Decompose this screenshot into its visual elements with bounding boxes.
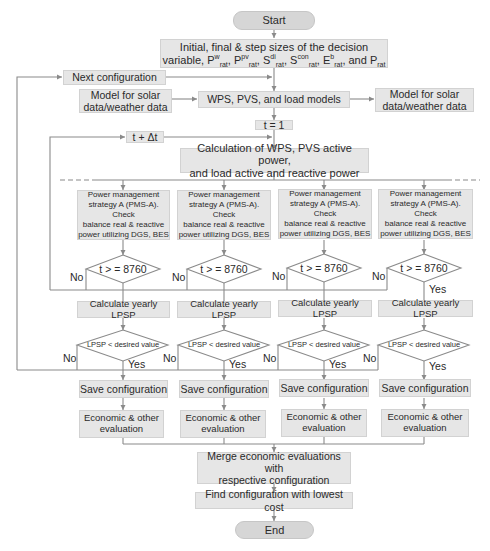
time-check-label-4: t > = 8760 — [394, 263, 454, 274]
next-configuration-label: Next configuration — [72, 71, 157, 83]
lpsp-check-label-3: LPSP < desired value — [284, 341, 364, 349]
model-solar-weather-right-box: Model for solar data/weather data — [375, 88, 474, 112]
lpsp-check-label-2: LPSP < desired value — [184, 341, 264, 349]
time-no-label-4: No — [372, 271, 385, 282]
calculation-power-box: Calculation of WPS, PVS active power, an… — [180, 148, 369, 173]
save-config-box-2: Save configuration — [179, 380, 269, 398]
end-label: End — [265, 524, 285, 537]
lpsp-no-label-3: No — [263, 353, 276, 364]
t-increment-label: t + Δt — [133, 131, 158, 143]
lpsp-check-label-4: LPSP < desired value — [384, 341, 464, 349]
lpsp-no-label-1: No — [63, 353, 76, 364]
pms-box-1: Power managementstrategy A (PMS-A). Chec… — [77, 190, 170, 240]
time-no-label-1: No — [70, 272, 83, 283]
t-increment-box: t + Δt — [126, 131, 164, 143]
init-line-1: Initial, final & step sizes of the decis… — [163, 41, 386, 54]
time-check-label-3: t > = 8760 — [294, 263, 354, 274]
econ-eval-box-2: Economic & otherevaluation — [180, 410, 266, 438]
save-config-box-3: Save configuration — [279, 379, 369, 397]
time-check-label-1: t > = 8760 — [93, 264, 153, 275]
econ-eval-box-1: Economic & otherevaluation — [79, 410, 164, 438]
pms-box-4: Power managementstrategy A (PMS-A). Chec… — [378, 189, 473, 239]
model-solar-weather-left-box: Model for solar data/weather data — [79, 89, 172, 113]
save-config-box-1: Save configuration — [79, 380, 168, 398]
start-terminal: Start — [233, 11, 315, 30]
find-lowest-cost-box: Find configuration with lowest cost — [195, 492, 353, 509]
init-decision-variables-box: Initial, final & step sizes of the decis… — [160, 39, 388, 68]
merge-evaluations-box: Merge economic evaluations with respecti… — [197, 452, 351, 484]
lpsp-no-label-2: No — [163, 353, 176, 364]
end-terminal: End — [235, 521, 314, 539]
wps-pvs-load-models-box: WPS, PVS, and load models — [198, 91, 350, 108]
calc-line-1: Calculation of WPS, PVS active power, — [181, 142, 368, 167]
calc-lpsp-box-3: Calculate yearly LPSP — [278, 300, 372, 317]
t-init-label: t = 1 — [264, 119, 285, 131]
time-no-label-2: No — [172, 272, 185, 283]
calc-lpsp-box-1: Calculate yearly LPSP — [77, 301, 170, 318]
merge-line-1: Merge economic evaluations with — [198, 450, 350, 474]
pms-box-2: Power managementstrategy A (PMS-A). Chec… — [177, 190, 271, 240]
save-config-box-4: Save configuration — [379, 379, 471, 397]
lpsp-yes-label-4: Yes — [429, 361, 446, 372]
time-check-label-2: t > = 8760 — [194, 264, 254, 275]
init-line-2: variable, Pwrat, Ppvrat, Sdirat, Sconrat… — [163, 54, 386, 67]
econ-eval-box-4: Economic & otherevaluation — [381, 409, 469, 437]
t-init-box: t = 1 — [255, 120, 293, 130]
lpsp-yes-label-2: Yes — [229, 359, 246, 370]
time-yes-label-4: Yes — [429, 284, 446, 295]
calc-line-2: and load active and reactive power — [181, 167, 368, 180]
pms-box-3: Power managementstrategy A (PMS-A). Chec… — [278, 189, 372, 239]
model-left-line-2: data/weather data — [83, 101, 167, 113]
econ-eval-box-3: Economic & otherevaluation — [281, 409, 367, 437]
merge-line-2: respective configuration — [198, 474, 350, 486]
calc-lpsp-box-4: Calculate yearly LPSP — [378, 300, 473, 317]
lpsp-check-label-1: LPSP < desired value — [83, 341, 163, 349]
time-no-label-3: No — [272, 271, 285, 282]
model-left-line-1: Model for solar — [83, 89, 167, 101]
lpsp-yes-label-3: Yes — [329, 359, 346, 370]
calc-lpsp-box-2: Calculate yearly LPSP — [177, 301, 271, 318]
find-label: Find configuration with lowest cost — [196, 488, 352, 512]
models-label: WPS, PVS, and load models — [207, 93, 341, 105]
model-right-line-1: Model for solar — [382, 88, 466, 100]
next-configuration-box: Next configuration — [63, 70, 166, 85]
lpsp-yes-label-1: Yes — [128, 359, 145, 370]
model-right-line-2: data/weather data — [382, 100, 466, 112]
start-label: Start — [262, 14, 285, 27]
lpsp-no-label-4: No — [363, 353, 376, 364]
